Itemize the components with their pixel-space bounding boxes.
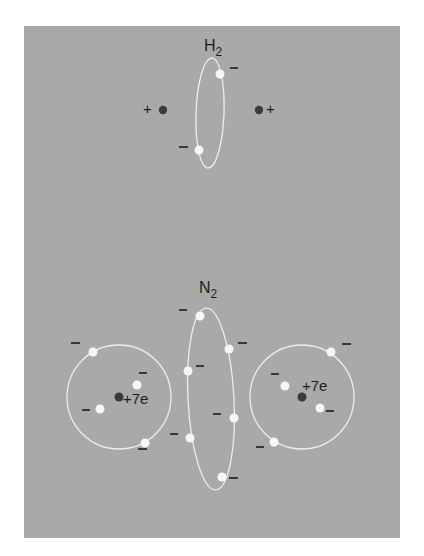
molecule-diagram: H2 + + N2 +7e: [0, 0, 424, 556]
electron: [270, 438, 279, 447]
h2-nucleus-right: [255, 106, 263, 114]
h2-electron: [216, 70, 225, 79]
h2-label: H2: [204, 37, 223, 59]
right-nucleus-charge: +7e: [302, 377, 327, 394]
bond-electron: [218, 473, 227, 482]
plus-sign: +: [266, 100, 275, 117]
bond-electron: [186, 434, 195, 443]
h2-molecule: H2 + +: [143, 37, 275, 168]
n2-label: N2: [199, 279, 218, 301]
electron: [141, 439, 150, 448]
n2-molecule: N2 +7e: [67, 279, 354, 491]
n-atom-right: +7e: [250, 344, 354, 449]
n2-bond-orbit: [183, 307, 238, 491]
electron: [327, 348, 336, 357]
electron: [133, 381, 142, 390]
n-atom-left: +7e: [67, 343, 171, 449]
h2-electron: [195, 146, 204, 155]
electron: [316, 404, 325, 413]
left-nucleus-charge: +7e: [123, 390, 148, 407]
bond-electron: [230, 414, 239, 423]
plus-sign: +: [143, 100, 152, 117]
electron: [281, 382, 290, 391]
bond-electron: [184, 367, 193, 376]
h2-nucleus-left: [159, 106, 167, 114]
electron: [89, 348, 98, 357]
bond-electron: [225, 345, 234, 354]
electron: [96, 405, 105, 414]
bond-electron: [196, 312, 205, 321]
